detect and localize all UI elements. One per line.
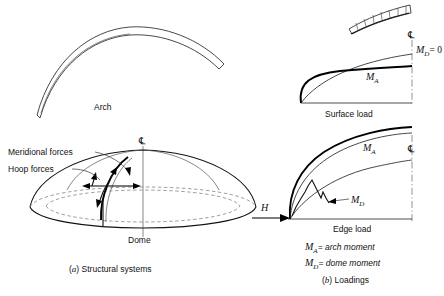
svg-text:(b) Loadings: (b) Loadings <box>322 275 369 285</box>
legend-row-dome-moment: MD= dome moment <box>304 257 381 271</box>
surface-load-arch-curve <box>301 66 412 103</box>
edge-load-centerline-symbol: ℄ <box>407 144 415 154</box>
legend-md-definition: = dome moment <box>318 258 380 268</box>
arch-label: Arch <box>94 102 112 112</box>
edge-load-diagram: ℄ H MA MD Edge loa <box>252 127 415 234</box>
md-value: = 0 <box>429 45 442 55</box>
ma-subscript: A <box>373 77 379 85</box>
meridional-force-arrow-up <box>103 172 114 192</box>
edge-load-arch-curve <box>290 127 412 219</box>
surface-load-label: Surface load <box>325 109 373 119</box>
figure-structural-systems-and-loadings: Arch ℄ <box>0 0 444 296</box>
surface-load-centerline-symbol: ℄ <box>407 30 415 40</box>
edge-load-label: Edge load <box>333 224 372 234</box>
hoop-force-arrowhead-right <box>133 183 141 189</box>
panel-a-caption-text: Structural systems <box>82 264 152 274</box>
dome-meridian-right <box>143 150 219 190</box>
surface-load-ma-label: MA <box>365 71 379 85</box>
panel-b-caption-text: Loadings <box>335 275 370 285</box>
dome-meridian-left <box>67 150 143 190</box>
edge-load-md-zigzag <box>292 180 329 216</box>
legend-ma-definition: = arch moment <box>318 242 376 252</box>
legend-row-arch-moment: MA= arch moment <box>304 241 375 255</box>
surface-load-diagram: ℄ MD= 0 MA Surface load <box>301 5 443 119</box>
meridional-forces-label: Meridional forces <box>8 147 73 157</box>
edge-md-subscript: D <box>358 200 364 208</box>
hoop-force-arrowhead-left <box>82 183 90 189</box>
surface-load-dome-curve <box>301 54 412 103</box>
edge-ma-subscript: A <box>370 148 376 156</box>
edge-load-md-label: MD <box>350 194 364 208</box>
edge-load-dome-curve <box>290 160 412 219</box>
arch-ribbon <box>37 27 224 118</box>
edge-load-h-arrowhead <box>280 214 290 222</box>
svg-text:(a) Structural systems: (a) Structural systems <box>69 264 151 274</box>
dome-diagram: ℄ <box>8 136 256 245</box>
edge-load-md-leader-head <box>328 198 336 204</box>
panel-b-caption: (b) Loadings <box>322 275 369 285</box>
edge-load-ma-label: MA <box>362 142 376 156</box>
dome-label: Dome <box>128 235 151 245</box>
edge-load-h-label: H <box>260 202 269 213</box>
arch-inner-edge <box>41 34 130 113</box>
meridional-forces-leader-head <box>125 167 131 176</box>
edge-load-arch-inner-curve <box>290 133 412 219</box>
hoop-forces-label: Hoop forces <box>8 164 54 174</box>
panel-b-legend: MA= arch moment MD= dome moment <box>304 241 381 271</box>
surface-load-tick-5 <box>389 10 390 18</box>
panel-a-caption: (a) Structural systems <box>69 264 151 274</box>
surface-load-md-zero-label: MD= 0 <box>415 44 442 58</box>
arch-diagram: Arch <box>37 27 224 118</box>
dome-centerline-symbol: ℄ <box>138 136 146 146</box>
surface-load-shell <box>351 13 409 34</box>
surface-load-boundary <box>349 5 411 34</box>
